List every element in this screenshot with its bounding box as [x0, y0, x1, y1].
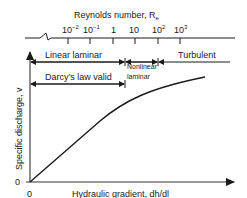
- tick-label-1e2: 102: [152, 24, 166, 35]
- tick-label-1e-1: 10−1: [83, 24, 101, 35]
- darcy-law-diagram: Reynolds number, Re 10−2 10−1 1 10 102 1…: [0, 0, 247, 198]
- reynolds-axis-title: Reynolds number, Re: [74, 10, 160, 21]
- x-origin-label: 0: [27, 189, 32, 198]
- y-axis-label: Specific discharge, v: [14, 87, 24, 170]
- nonlinear-laminar-label-2: laminar: [127, 73, 151, 80]
- linear-laminar-label: Linear laminar: [45, 50, 102, 60]
- discharge-gradient-curve: [30, 77, 205, 182]
- turbulent-label: Turbulent: [178, 50, 216, 60]
- tick-label-1: 1: [111, 25, 116, 35]
- x-axis-label: Hydraulic gradient, dh/dl: [72, 189, 169, 198]
- darcy-law-label: Darcy’s law valid: [45, 72, 112, 82]
- reynolds-ticks: [68, 38, 180, 44]
- nonlinear-laminar-label-1: Nonlinear: [127, 63, 158, 70]
- y-origin-label: 0: [15, 177, 20, 187]
- tick-label-10: 10: [129, 25, 139, 35]
- tick-label-1e-2: 10−2: [62, 24, 80, 35]
- tick-label-1e3: 103: [174, 24, 188, 35]
